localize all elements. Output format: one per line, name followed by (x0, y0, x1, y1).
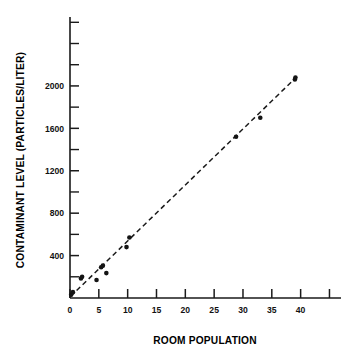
data-point (234, 135, 239, 140)
data-point (124, 245, 129, 250)
data-point (258, 115, 263, 120)
data-point (80, 274, 85, 279)
y-axis-group: 400800120016002000 (45, 17, 79, 298)
x-tick-label: 40 (296, 305, 306, 315)
y-tick-label: 2000 (45, 81, 64, 91)
data-point (71, 290, 76, 295)
y-axis-tick-labels: 400800120016002000 (45, 81, 64, 261)
y-axis-ticks (70, 22, 79, 276)
data-point (293, 75, 298, 80)
x-tick-label: 35 (267, 305, 277, 315)
x-tick-label: 20 (181, 305, 191, 315)
y-axis-title: CONTAMINANT LEVEL (PARTICLES/LITER) (15, 52, 26, 268)
data-point (104, 271, 109, 276)
y-tick-label: 1200 (45, 166, 64, 176)
x-tick-label: 25 (209, 305, 219, 315)
y-tick-label: 1600 (45, 124, 64, 134)
y-tick-label: 400 (50, 251, 65, 261)
x-axis-title: ROOM POPULATION (153, 335, 257, 346)
scatter-chart: 400800120016002000 0510152025303540 ROOM… (0, 0, 354, 360)
x-tick-label: 30 (238, 305, 248, 315)
x-tick-label: 0 (68, 305, 73, 315)
chart-canvas: 400800120016002000 0510152025303540 ROOM… (0, 0, 354, 360)
x-tick-label: 15 (152, 305, 162, 315)
x-axis-ticks (70, 289, 329, 298)
x-axis-tick-labels: 0510152025303540 (68, 305, 306, 315)
x-axis-group: 0510152025303540 (68, 289, 341, 315)
data-point (94, 278, 99, 283)
x-tick-label: 5 (96, 305, 101, 315)
y-tick-label: 800 (50, 208, 65, 218)
data-point (127, 235, 132, 240)
data-point (101, 263, 106, 268)
regression-fit-line (71, 77, 296, 296)
x-tick-label: 10 (123, 305, 133, 315)
